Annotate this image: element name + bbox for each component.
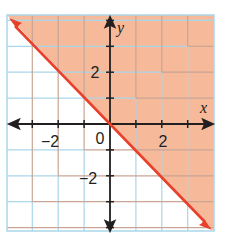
inequality-graph: x y −2 2 0 2 −2 [0, 0, 231, 233]
y-axis-label: y [115, 19, 125, 37]
x-tick-label-2: 2 [159, 133, 168, 150]
y-tick-label-neg2: −2 [79, 170, 97, 187]
x-axis-label: x [199, 99, 207, 116]
x-tick-label-neg2: −2 [41, 133, 59, 150]
origin-label: 0 [96, 130, 105, 147]
y-tick-label-2: 2 [91, 64, 100, 81]
